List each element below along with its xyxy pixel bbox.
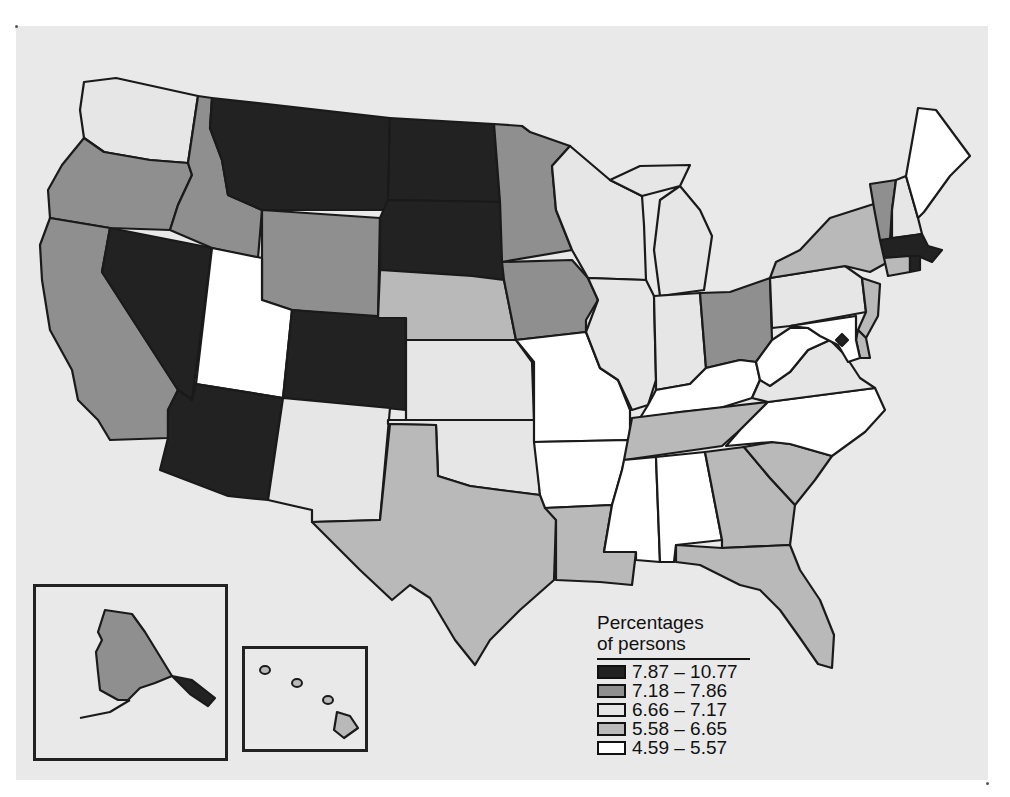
map-legend: Percentages of persons 7.87 – 10.77 7.18… [597,612,777,757]
legend-label: 6.66 – 7.17 [632,700,727,719]
legend-swatch [597,665,626,679]
legend-label: 5.58 – 6.65 [632,719,727,738]
hawaii-island-big [334,712,358,738]
legend-divider [597,658,750,660]
legend-title-line2: of persons [597,633,777,654]
legend-label: 4.59 – 5.57 [632,738,727,757]
hawaii-island-oahu [292,679,302,687]
legend-item: 7.87 – 10.77 [597,662,777,681]
hawaii-map [0,0,1010,797]
legend-swatch [597,741,626,755]
legend-label: 7.87 – 10.77 [632,662,738,681]
legend-item: 7.18 – 7.86 [597,681,777,700]
legend-item: 5.58 – 6.65 [597,719,777,738]
legend-title-line1: Percentages [597,612,777,633]
legend-swatch [597,684,626,698]
legend-swatch [597,703,626,717]
hawaii-island-maui [323,696,333,704]
hawaii-island-kauai [260,666,270,674]
legend-swatch [597,722,626,736]
legend-item: 4.59 – 5.57 [597,738,777,757]
legend-item: 6.66 – 7.17 [597,700,777,719]
legend-label: 7.18 – 7.86 [632,681,727,700]
